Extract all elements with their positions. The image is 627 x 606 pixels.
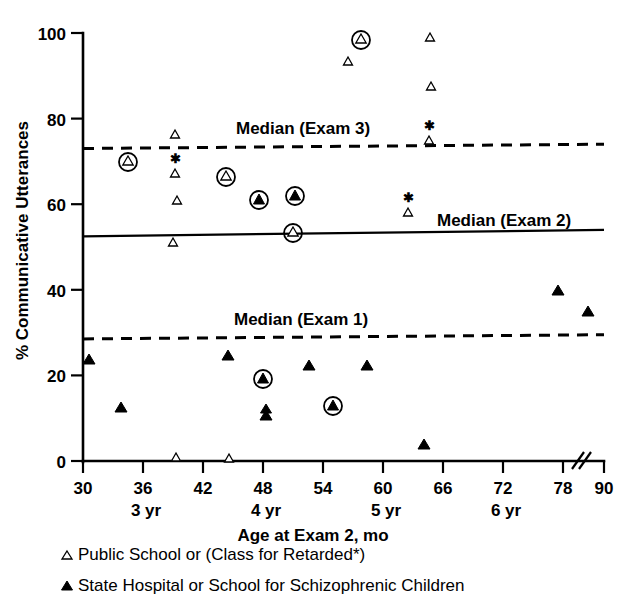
legend-label-state-hospital: State Hospital or School for Schizophren…: [78, 576, 464, 595]
x-axis-ticks: [83, 461, 604, 473]
series-public-school: ✱: [119, 31, 436, 462]
x-tick-30: 30: [74, 479, 93, 498]
asterisk-marker: ✱: [424, 118, 435, 133]
median-exam3-line: [83, 144, 604, 148]
y-axis-tick-labels: 100 80 60 40 20 0: [38, 25, 66, 472]
data-point-open-triangle: [404, 208, 413, 216]
scatter-plot: % Communicative Utterances 100 80 60 40 …: [0, 0, 627, 606]
data-point-open-triangle: [427, 82, 436, 90]
data-point-filled-triangle: [582, 306, 594, 316]
median-exam1-label: Median (Exam 1): [234, 310, 368, 329]
data-point-open-triangle: [172, 453, 181, 461]
data-point-filled-triangle: [552, 285, 564, 295]
data-point-open-triangle: [171, 130, 180, 138]
median-exam3-label: Median (Exam 3): [236, 119, 370, 138]
x-axis-tick-labels: 30 36 42 48 54 60 66 72 78 90: [74, 479, 614, 498]
data-point-filled-triangle: [254, 370, 272, 388]
year-label-6yr: 6 yr: [491, 501, 522, 520]
data-point-filled-triangle: [115, 402, 127, 412]
x-tick-78: 78: [554, 479, 573, 498]
data-point-filled-triangle: [303, 360, 315, 370]
y-tick-20: 20: [47, 367, 66, 386]
data-point-filled-triangle: [222, 350, 234, 360]
median-exam2-line: [83, 230, 604, 236]
data-point-filled-triangle: [286, 187, 304, 205]
x-tick-60: 60: [374, 479, 393, 498]
x-axis-year-labels: 3 yr 4 yr 5 yr 6 yr: [131, 501, 522, 520]
x-axis-label: Age at Exam 2, mo: [237, 526, 388, 545]
data-point-open-triangle: [344, 57, 353, 65]
data-point-open-triangle: [169, 238, 178, 246]
median-exam1-line: [83, 335, 604, 339]
asterisk-marker: ✱: [403, 190, 414, 205]
legend-open-triangle-icon: [62, 551, 72, 559]
year-label-5yr: 5 yr: [371, 501, 402, 520]
data-point-open-triangle: [352, 31, 370, 49]
chart-figure: % Communicative Utterances 100 80 60 40 …: [0, 0, 627, 606]
data-point-filled-triangle: [361, 360, 373, 370]
legend-label-public-school: Public School or (Class for Retarded*): [78, 545, 365, 564]
x-tick-66: 66: [434, 479, 453, 498]
data-point-open-triangle: [119, 153, 137, 171]
y-tick-60: 60: [47, 196, 66, 215]
data-point-filled-triangle: [250, 191, 268, 209]
x-tick-54: 54: [314, 479, 333, 498]
data-point-open-triangle: [173, 196, 182, 204]
year-label-4yr: 4 yr: [251, 501, 282, 520]
data-point-open-triangle: [426, 33, 435, 41]
y-tick-0: 0: [57, 453, 66, 472]
y-tick-100: 100: [38, 25, 66, 44]
data-point-open-triangle: [217, 168, 235, 186]
x-tick-90: 90: [595, 479, 614, 498]
data-point-filled-triangle: [418, 439, 430, 449]
data-point-open-triangle: [225, 454, 234, 462]
data-point-filled-triangle: [83, 354, 95, 364]
data-point-open-triangle: [425, 136, 434, 144]
data-point-open-triangle: [171, 169, 180, 177]
legend-filled-triangle-icon: [62, 581, 73, 590]
year-label-3yr: 3 yr: [131, 501, 162, 520]
x-tick-36: 36: [134, 479, 153, 498]
y-tick-80: 80: [47, 111, 66, 130]
median-exam2-label: Median (Exam 2): [437, 211, 571, 230]
legend: Public School or (Class for Retarded*) S…: [62, 545, 465, 595]
x-tick-48: 48: [254, 479, 273, 498]
x-tick-42: 42: [194, 479, 213, 498]
y-axis-label: % Communicative Utterances: [13, 121, 32, 360]
data-point-filled-triangle: [324, 397, 342, 415]
y-axis-ticks: [71, 33, 83, 461]
x-tick-72: 72: [494, 479, 513, 498]
y-tick-40: 40: [47, 282, 66, 301]
asterisk-marker: ✱: [170, 151, 181, 166]
